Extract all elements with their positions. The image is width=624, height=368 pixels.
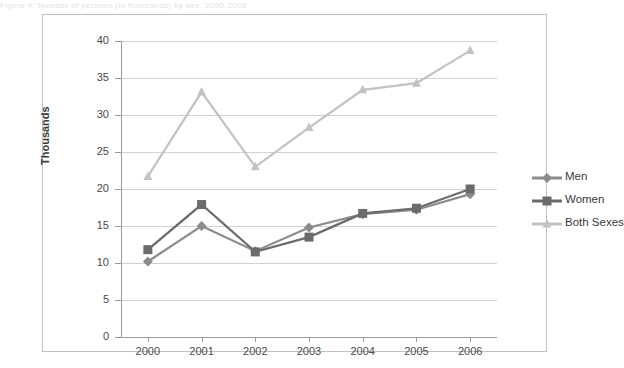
legend-swatch-icon bbox=[532, 195, 562, 207]
legend-swatch-icon bbox=[532, 172, 562, 184]
y-axis-label: 40 bbox=[75, 35, 109, 46]
x-axis-tick bbox=[309, 337, 310, 342]
data-point bbox=[197, 200, 206, 209]
x-axis-label: 2002 bbox=[232, 345, 278, 357]
y-axis-label: 5 bbox=[75, 294, 109, 305]
legend-label: Men bbox=[565, 170, 587, 182]
y-axis-label: 35 bbox=[75, 72, 109, 83]
x-axis-label: 2003 bbox=[286, 345, 332, 357]
x-axis-label: 2005 bbox=[393, 345, 439, 357]
x-axis-tick bbox=[255, 337, 256, 342]
series-women bbox=[143, 185, 474, 257]
legend-item-men[interactable]: Men bbox=[532, 167, 624, 190]
x-axis-label: 2001 bbox=[179, 345, 225, 357]
data-point bbox=[197, 87, 206, 96]
legend-item-women[interactable]: Women bbox=[532, 190, 624, 213]
data-point bbox=[412, 204, 421, 213]
series-men bbox=[143, 189, 475, 266]
x-axis-tick bbox=[470, 337, 471, 342]
data-point bbox=[305, 123, 314, 132]
plot-area bbox=[121, 41, 497, 337]
x-axis-label: 2006 bbox=[447, 345, 493, 357]
x-axis-tick bbox=[416, 337, 417, 342]
data-point bbox=[143, 245, 152, 254]
x-axis-label: 2000 bbox=[125, 345, 171, 357]
legend-label: Both Sexes bbox=[565, 216, 624, 228]
legend-marker bbox=[542, 173, 552, 183]
data-point bbox=[305, 233, 314, 242]
y-axis-label: 15 bbox=[75, 220, 109, 231]
x-axis-tick bbox=[148, 337, 149, 342]
chart-frame: Thousands 0510152025303540 2000200120022… bbox=[42, 14, 547, 352]
x-axis-tick bbox=[202, 337, 203, 342]
legend-marker bbox=[543, 197, 552, 206]
y-axis-label: 20 bbox=[75, 183, 109, 194]
x-axis-tick bbox=[363, 337, 364, 342]
series-line bbox=[148, 51, 470, 177]
y-axis-label: 0 bbox=[75, 331, 109, 342]
series-both-sexes bbox=[143, 46, 474, 180]
series-line bbox=[148, 189, 470, 252]
x-axis-label: 2004 bbox=[340, 345, 386, 357]
data-point bbox=[466, 185, 475, 194]
legend-item-both-sexes[interactable]: Both Sexes bbox=[532, 213, 624, 236]
y-axis-title: Thousands bbox=[39, 106, 51, 165]
data-point bbox=[304, 222, 314, 232]
y-axis-label: 25 bbox=[75, 146, 109, 157]
data-point bbox=[358, 209, 367, 218]
legend-label: Women bbox=[565, 193, 604, 205]
y-axis-label: 30 bbox=[75, 109, 109, 120]
y-axis-label: 10 bbox=[75, 257, 109, 268]
data-point bbox=[466, 46, 475, 55]
chart-legend: MenWomenBoth Sexes bbox=[532, 167, 624, 236]
legend-swatch-icon bbox=[532, 218, 562, 230]
data-point bbox=[251, 247, 260, 256]
page-header-text: Figure 4: Number of persons (in thousand… bbox=[0, 0, 590, 11]
